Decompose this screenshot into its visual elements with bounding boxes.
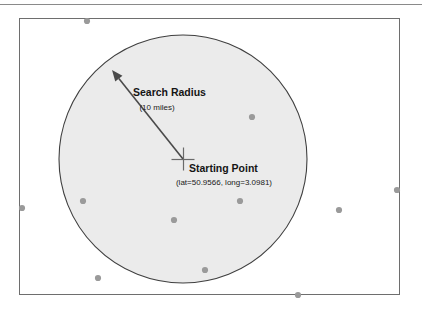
scatter-point: [84, 18, 90, 24]
scatter-point: [171, 217, 177, 223]
scatter-point: [19, 205, 25, 211]
search-radius-label: Search Radius: [133, 86, 206, 98]
search-radius-diagram: Search Radius (10 miles) Starting Point …: [0, 0, 422, 312]
starting-point-label: Starting Point: [189, 162, 258, 174]
search-radius-sublabel: (10 miles): [139, 103, 174, 112]
starting-point-coordinates: (lat=50.9566, long=3.0981): [176, 178, 272, 187]
diagram-canvas: Search Radius (10 miles) Starting Point …: [0, 0, 422, 312]
scatter-point: [237, 198, 243, 204]
scatter-point: [95, 275, 101, 281]
scatter-point: [394, 187, 400, 193]
scatter-point: [249, 114, 255, 120]
scatter-point: [202, 267, 208, 273]
scatter-point: [295, 292, 301, 298]
scatter-point: [336, 207, 342, 213]
scatter-point: [80, 198, 86, 204]
